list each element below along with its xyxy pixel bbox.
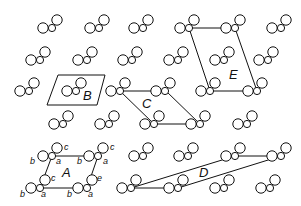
- atom-a: [25, 87, 32, 94]
- atom-c: [52, 15, 62, 25]
- atom-a: [127, 184, 134, 191]
- molecule: [117, 175, 141, 193]
- atom-a: [277, 152, 284, 159]
- atom-b: [38, 23, 48, 33]
- molecule: [267, 143, 291, 161]
- atom-b: [164, 183, 174, 193]
- molecule: [164, 47, 188, 65]
- atom-a: [95, 24, 102, 31]
- molecule: [95, 111, 119, 129]
- atom-c: [189, 15, 199, 25]
- atom-c: [120, 78, 130, 88]
- atom-b: [106, 86, 116, 96]
- molecule: [73, 47, 97, 65]
- atom-a: [105, 120, 112, 127]
- atom-c: [98, 143, 108, 153]
- atom-b: [175, 23, 185, 33]
- atom-label: b: [77, 156, 82, 166]
- atom-a: [48, 152, 55, 159]
- atom-label: b: [67, 189, 72, 199]
- atom-c: [143, 15, 153, 25]
- atom-a: [220, 184, 227, 191]
- atom-b: [174, 151, 184, 161]
- atom-a: [174, 56, 181, 63]
- atom-b: [73, 55, 83, 65]
- atom-c: [178, 47, 188, 57]
- atom-c: [165, 78, 175, 88]
- cell-label-d: D: [199, 165, 208, 180]
- cell-label-b: B: [83, 88, 92, 103]
- atom-c: [178, 175, 188, 185]
- atom-a: [264, 56, 271, 63]
- molecule: [151, 78, 175, 96]
- molecule: [118, 47, 142, 65]
- atom-c: [268, 47, 278, 57]
- molecule: [129, 143, 153, 161]
- atom-b: [140, 119, 150, 129]
- atom-a: [277, 24, 284, 31]
- molecule: [85, 15, 109, 33]
- cell-label-a: A: [61, 165, 71, 180]
- atom-label: c: [51, 173, 56, 183]
- atom-label: a: [103, 156, 108, 166]
- atom-b: [233, 119, 243, 129]
- molecule: [174, 143, 198, 161]
- atom-b: [62, 86, 72, 96]
- atom-label: b: [20, 189, 25, 199]
- atom-a: [231, 152, 238, 159]
- atom-label: a: [56, 156, 61, 166]
- atom-c: [281, 15, 291, 25]
- atom-b: [26, 183, 36, 193]
- molecule: [106, 78, 130, 96]
- atom-b: [186, 119, 196, 129]
- molecule: [73, 175, 97, 193]
- molecule: [221, 15, 245, 33]
- atom-a: [253, 87, 260, 94]
- atom-a: [150, 120, 157, 127]
- atom-b: [95, 119, 105, 129]
- atom-b: [221, 23, 231, 33]
- atom-b: [196, 86, 206, 96]
- atom-a: [174, 184, 181, 191]
- atom-c: [143, 143, 153, 153]
- atom-b: [118, 55, 128, 65]
- molecule: [49, 111, 73, 129]
- atom-c: [63, 111, 73, 121]
- molecule: [267, 15, 291, 33]
- atom-c: [235, 15, 245, 25]
- atom-a: [59, 120, 66, 127]
- molecule: [26, 47, 50, 65]
- atom-b: [267, 23, 277, 33]
- atom-a: [139, 24, 146, 31]
- atom-b: [129, 23, 139, 33]
- atom-b: [267, 151, 277, 161]
- atom-c: [224, 175, 234, 185]
- atom-c: [257, 78, 267, 88]
- atom-b: [85, 23, 95, 33]
- atom-c: [76, 78, 86, 88]
- cell-label-c: C: [142, 96, 152, 111]
- atom-c: [247, 111, 257, 121]
- molecule: [256, 175, 280, 193]
- atom-a: [94, 152, 101, 159]
- lattice-diagram: ABCDEcabcabcebaba: [0, 0, 301, 206]
- atom-c: [40, 47, 50, 57]
- atom-c: [87, 47, 97, 57]
- molecule: [243, 78, 267, 96]
- atom-c: [132, 47, 142, 57]
- atom-a: [72, 87, 79, 94]
- atom-a: [36, 56, 43, 63]
- atom-a: [128, 56, 135, 63]
- atom-a: [161, 87, 168, 94]
- molecule: [164, 175, 188, 193]
- atom-b: [151, 86, 161, 96]
- atom-label: b: [30, 156, 35, 166]
- atom-a: [184, 152, 191, 159]
- atom-c: [281, 143, 291, 153]
- atom-a: [196, 120, 203, 127]
- atom-a: [231, 24, 238, 31]
- cell-label-e: E: [229, 67, 238, 82]
- atom-c: [224, 47, 234, 57]
- atom-c: [40, 175, 50, 185]
- atom-b: [129, 151, 139, 161]
